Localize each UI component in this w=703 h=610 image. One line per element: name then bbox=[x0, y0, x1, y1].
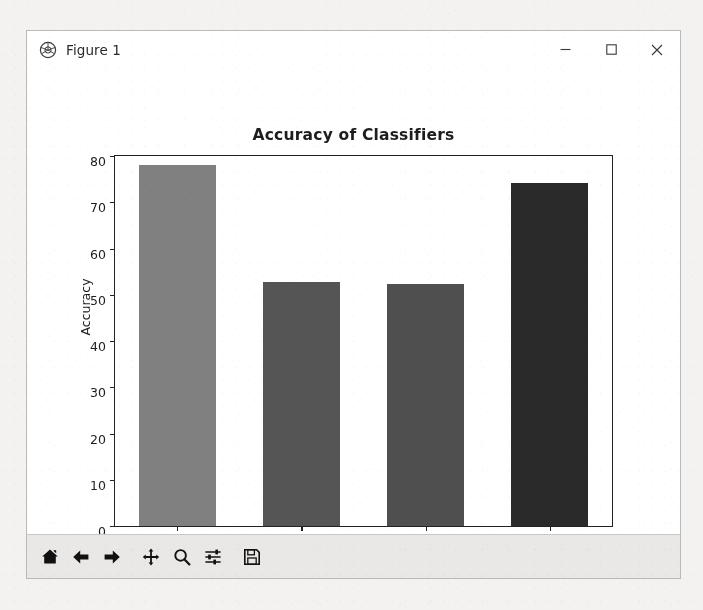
x-tick-mark bbox=[177, 526, 178, 531]
bar bbox=[387, 284, 464, 526]
y-tick-label: 30 bbox=[90, 388, 115, 401]
toolbar-separator bbox=[229, 542, 237, 572]
magnifier-icon[interactable] bbox=[167, 542, 197, 572]
arrow-left-icon[interactable] bbox=[66, 542, 96, 572]
plot-axes: 01020304050607080ialNBulliNBSVCBayes bbox=[114, 155, 613, 527]
y-tick-label: 10 bbox=[90, 480, 115, 493]
chart-title: Accuracy of Classifiers bbox=[27, 126, 680, 144]
y-tick-label: 20 bbox=[90, 434, 115, 447]
close-icon[interactable] bbox=[634, 31, 680, 68]
minimize-icon[interactable] bbox=[542, 31, 588, 68]
x-tick-mark bbox=[550, 526, 551, 531]
maximize-icon[interactable] bbox=[588, 31, 634, 68]
floppy-disk-icon[interactable] bbox=[237, 542, 267, 572]
y-tick-label: 70 bbox=[90, 203, 115, 216]
bar-series bbox=[115, 156, 612, 526]
bar bbox=[263, 282, 340, 526]
bar bbox=[511, 183, 588, 526]
screenshot-root: Figure 1 bbox=[0, 0, 703, 610]
x-tick-mark bbox=[426, 526, 427, 531]
sliders-icon[interactable] bbox=[198, 542, 228, 572]
window-title: Figure 1 bbox=[66, 42, 121, 58]
figure-canvas[interactable]: Accuracy of Classifiers Accuracy 0102030… bbox=[27, 68, 680, 534]
window-titlebar: Figure 1 bbox=[27, 31, 680, 68]
matplotlib-navigation-toolbar bbox=[27, 534, 680, 578]
y-tick-label: 40 bbox=[90, 341, 115, 354]
y-tick-label: 50 bbox=[90, 295, 115, 308]
window-controls bbox=[542, 31, 680, 68]
home-icon[interactable] bbox=[35, 542, 65, 572]
figure-window: Figure 1 bbox=[26, 30, 681, 579]
figure-area: Accuracy of Classifiers Accuracy 0102030… bbox=[27, 68, 680, 534]
y-tick-label: 80 bbox=[90, 156, 115, 169]
y-tick-label: 0 bbox=[98, 526, 115, 534]
x-tick-mark bbox=[301, 526, 302, 531]
arrow-right-icon[interactable] bbox=[97, 542, 127, 572]
matplotlib-icon bbox=[39, 41, 57, 59]
bar bbox=[139, 165, 216, 526]
move-icon[interactable] bbox=[136, 542, 166, 572]
y-tick-label: 60 bbox=[90, 249, 115, 262]
toolbar-separator bbox=[128, 542, 136, 572]
